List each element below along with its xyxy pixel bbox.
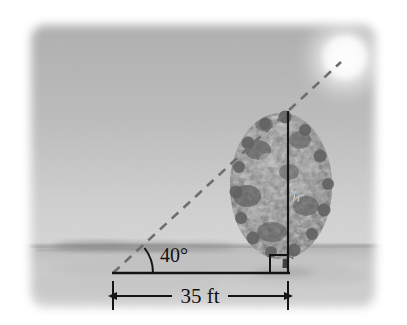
tree-angle-of-elevation-figure: 40° h 35 ft: [0, 0, 407, 325]
height-label: h: [292, 187, 301, 206]
figure-container: 40° h 35 ft: [0, 0, 407, 325]
angle-label: 40°: [160, 244, 188, 266]
ground-distance-label: 35 ft: [180, 284, 219, 308]
